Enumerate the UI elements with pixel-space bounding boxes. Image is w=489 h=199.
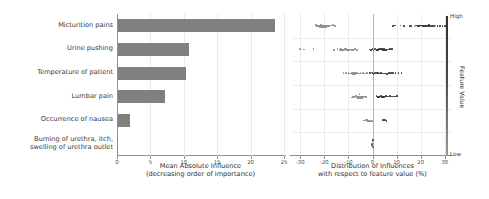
feature-label: Temperature of patient [2, 69, 113, 77]
left-panel-y-axis-spine [117, 14, 118, 156]
beeswarm-point [356, 49, 358, 51]
beeswarm-point [362, 72, 364, 74]
bar [118, 90, 165, 103]
gridline [150, 14, 151, 156]
beeswarm-point [442, 25, 444, 27]
feature-label: Urine pushing [2, 45, 113, 53]
feature-label: Micturition pains [2, 22, 113, 30]
mean-absolute-influence-bar-panel [117, 14, 284, 156]
beeswarm-point [372, 139, 374, 141]
colorbar-high-label: High [450, 13, 463, 19]
beeswarm-point [394, 25, 396, 27]
feature-value-colorbar [446, 16, 448, 156]
gridline [217, 14, 218, 156]
feature-label: Occurrence of nausea [2, 116, 113, 124]
gridline [184, 14, 185, 156]
bar [118, 43, 189, 56]
feature-label: Lumbar pain [2, 93, 113, 101]
beeswarm-point [334, 25, 336, 27]
feature-label: Burning of urethra, itch, swelling of ur… [2, 136, 113, 151]
gridline [348, 14, 349, 156]
beeswarm-point [359, 93, 361, 95]
beeswarm-point [392, 72, 394, 74]
bar [118, 19, 275, 32]
beeswarm-point [439, 25, 441, 27]
gridline [251, 14, 252, 156]
beeswarm-point [365, 96, 367, 98]
shap-summary-figure: Micturition painsUrine pushingTemperatur… [0, 0, 489, 199]
colorbar-title: Feature Value [459, 66, 466, 108]
gridline [284, 14, 285, 156]
left-panel-x-axis-spine [117, 155, 286, 156]
beeswarm-point [386, 120, 388, 122]
right-panel-axis-title: Distribution of Influences with respect … [290, 162, 455, 178]
gridline [421, 14, 422, 156]
beeswarm-point [398, 72, 400, 74]
gridline [300, 14, 301, 156]
beeswarm-point [345, 72, 347, 74]
beeswarm-point [333, 49, 335, 51]
bar [118, 67, 186, 80]
bar [118, 114, 130, 127]
gridline [397, 14, 398, 156]
gridline [324, 14, 325, 156]
influence-distribution-beeswarm-panel [293, 14, 452, 156]
beeswarm-point [313, 48, 315, 50]
beeswarm-point [396, 95, 398, 97]
beeswarm-point [337, 48, 339, 50]
left-panel-axis-title: Mean Absolute Influence (decreasing orde… [117, 162, 284, 178]
zero-reference-line [373, 14, 374, 156]
beeswarm-point [366, 72, 368, 74]
beeswarm-point [391, 48, 393, 50]
beeswarm-point [372, 146, 374, 148]
beeswarm-point [403, 25, 405, 27]
colorbar-low-label: Low [450, 151, 461, 157]
beeswarm-point [400, 25, 402, 27]
right-panel-x-axis-spine [290, 155, 452, 156]
beeswarm-point [411, 25, 413, 27]
beeswarm-point [303, 49, 305, 51]
beeswarm-point [401, 72, 403, 74]
